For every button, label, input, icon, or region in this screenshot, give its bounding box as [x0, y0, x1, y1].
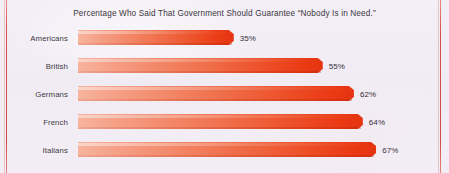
chart-container: Percentage Who Said That Government Shou… — [0, 0, 449, 173]
bar-value-label: 55% — [329, 61, 345, 70]
bar — [78, 86, 354, 101]
bar-chart-plot-area: Americans35%British55%Germans62%French64… — [0, 29, 449, 169]
chart-title: Percentage Who Said That Government Shou… — [0, 8, 449, 19]
bar-category-label: British — [0, 61, 68, 70]
bar-fill — [78, 86, 354, 101]
bar-row: Germans62% — [0, 86, 449, 101]
bar-row: French64% — [0, 114, 449, 129]
bar-value-label: 35% — [240, 33, 256, 42]
bar-category-label: Germans — [0, 89, 68, 98]
bar-category-label: French — [0, 117, 68, 126]
bar-row: British55% — [0, 58, 449, 73]
bar-row: Italians67% — [0, 142, 449, 157]
bar — [78, 58, 323, 73]
bar-fill — [78, 30, 234, 45]
bar-fill — [78, 114, 363, 129]
bar-value-label: 64% — [369, 117, 385, 126]
bar-fill — [78, 58, 323, 73]
bar-value-label: 67% — [382, 145, 398, 154]
bar-value-label: 62% — [360, 89, 376, 98]
bar-category-label: Italians — [0, 145, 68, 154]
bar-row: Americans35% — [0, 30, 449, 45]
bar-fill — [78, 142, 376, 157]
bar — [78, 114, 363, 129]
bar — [78, 30, 234, 45]
bar — [78, 142, 376, 157]
bar-category-label: Americans — [0, 33, 68, 42]
